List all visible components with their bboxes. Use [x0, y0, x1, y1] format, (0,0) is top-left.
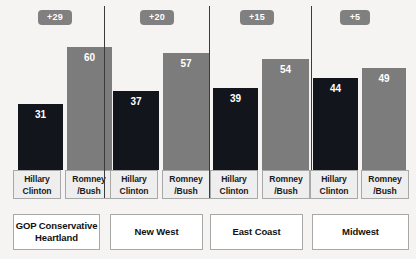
region-label-line1: Midwest — [342, 226, 379, 238]
bar-value-romney-4: 49 — [362, 73, 406, 84]
candidate-label-romney-2: Romney /Bush — [162, 170, 210, 199]
candidate-label-line2: Clinton — [111, 186, 157, 198]
region-label-3: East Coast — [210, 214, 303, 250]
candidate-label-line1: Hillary — [311, 174, 357, 186]
bar-clinton-4: 44 — [313, 78, 358, 170]
bar-clinton-2: 37 — [113, 91, 159, 170]
margin-badge-4: +5 — [340, 10, 370, 25]
bar-clinton-3: 39 — [213, 88, 258, 170]
bar-romney-3: 54 — [262, 59, 309, 170]
candidate-label-line1: Romney — [263, 174, 309, 186]
candidate-label-line2: Clinton — [311, 186, 357, 198]
bar-value-romney-2: 57 — [163, 58, 209, 69]
candidate-label-romney-3: Romney /Bush — [262, 170, 310, 199]
region-label-line2: Heartland — [16, 232, 98, 244]
region-label-line1: GOP Conservative — [16, 220, 98, 232]
candidate-label-line2: /Bush — [362, 186, 408, 198]
candidate-label-clinton-3: Hillary Clinton — [210, 170, 258, 199]
candidate-label-clinton-4: Hillary Clinton — [310, 170, 358, 199]
bar-value-romney-1: 60 — [67, 52, 112, 63]
bar-romney-2: 57 — [163, 53, 209, 170]
margin-badge-1: +29 — [38, 10, 72, 25]
candidate-label-line1: Romney — [362, 174, 408, 186]
candidate-label-line1: Romney — [66, 174, 112, 186]
candidate-label-clinton-2: Hillary Clinton — [110, 170, 158, 199]
region-label-4: Midwest — [312, 214, 409, 250]
region-label-line1: New West — [135, 226, 179, 238]
region-label-line1: East Coast — [232, 226, 280, 238]
bar-clinton-1: 31 — [18, 104, 63, 170]
bar-romney-1: 60 — [67, 47, 112, 170]
candidate-label-line1: Romney — [163, 174, 209, 186]
candidate-label-romney-4: Romney /Bush — [361, 170, 409, 199]
candidate-label-line2: /Bush — [66, 186, 112, 198]
candidate-label-clinton-1: Hillary Clinton — [13, 170, 61, 199]
bar-value-clinton-2: 37 — [113, 96, 159, 107]
candidate-label-romney-1: Romney /Bush — [65, 170, 113, 199]
candidate-label-line1: Hillary — [211, 174, 257, 186]
region-label-1: GOP Conservative Heartland — [13, 214, 100, 250]
bar-value-clinton-1: 31 — [18, 109, 63, 120]
region-label-2: New West — [110, 214, 203, 250]
grouped-bar-chart: +29 31 60 Hillary Clinton Romney /Bush G… — [0, 0, 416, 259]
bar-romney-4: 49 — [362, 68, 406, 170]
bar-value-clinton-4: 44 — [313, 83, 358, 94]
candidate-label-line2: Clinton — [14, 186, 60, 198]
candidate-label-line2: /Bush — [163, 186, 209, 198]
margin-badge-2: +20 — [140, 10, 174, 25]
group-divider-1 — [104, 6, 105, 198]
candidate-label-line1: Hillary — [14, 174, 60, 186]
candidate-label-line2: Clinton — [211, 186, 257, 198]
candidate-label-line2: /Bush — [263, 186, 309, 198]
bar-value-clinton-3: 39 — [213, 93, 258, 104]
bar-value-romney-3: 54 — [262, 64, 309, 75]
margin-badge-3: +15 — [240, 10, 274, 25]
candidate-label-line1: Hillary — [111, 174, 157, 186]
